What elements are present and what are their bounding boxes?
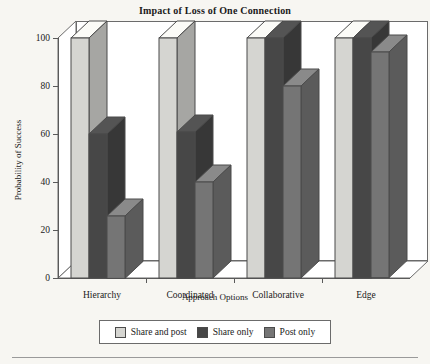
legend-swatch-icon <box>115 327 126 338</box>
plot-area: 020406080100 HierarchyCoordinatedCollabo… <box>58 38 410 278</box>
y-tick <box>53 182 58 183</box>
bar-3d-shape <box>195 165 231 278</box>
bar-coordinated-share-and-post[interactable] <box>159 21 177 278</box>
legend-label: Share only <box>213 327 254 337</box>
y-tick-label-100: 100 <box>36 33 50 43</box>
chart-figure: Impact of Loss of One Connection Probabi… <box>0 0 430 364</box>
y-tick <box>53 38 58 39</box>
bar-collaborative-post-only[interactable] <box>283 69 301 278</box>
y-tick <box>53 230 58 231</box>
x-tick <box>146 278 147 283</box>
bar-hierarchy-share-and-post[interactable] <box>71 21 89 278</box>
bar-edge-post-only[interactable] <box>371 35 389 278</box>
chart-title: Impact of Loss of One Connection <box>0 5 430 16</box>
bar-coordinated-share-only[interactable] <box>177 115 195 278</box>
y-axis-line <box>58 38 59 279</box>
bar-3d-shape <box>107 199 143 278</box>
bar-edge-share-only[interactable] <box>353 21 371 278</box>
y-tick <box>53 278 58 279</box>
bar-edge-share-and-post[interactable] <box>335 21 353 278</box>
y-tick-label-80: 80 <box>41 81 51 91</box>
y-tick-label-40: 40 <box>41 177 51 187</box>
y-tick <box>53 86 58 87</box>
legend-label: Post only <box>280 327 316 337</box>
bar-collaborative-share-and-post[interactable] <box>247 21 265 278</box>
y-tick-label-60: 60 <box>41 129 51 139</box>
y-axis-title: Probability of Success <box>13 80 23 240</box>
legend-swatch-icon <box>197 327 208 338</box>
x-axis-title: Approach Options <box>0 292 430 302</box>
bar-3d-shape <box>371 35 407 278</box>
bar-3d-shape <box>283 69 319 278</box>
x-tick <box>322 278 323 283</box>
x-tick <box>234 278 235 283</box>
y-tick-label-0: 0 <box>45 273 50 283</box>
y-tick <box>53 134 58 135</box>
bar-hierarchy-post-only[interactable] <box>107 199 125 278</box>
chart-legend: Share and postShare onlyPost only <box>99 320 331 344</box>
bar-hierarchy-share-only[interactable] <box>89 117 107 278</box>
bar-coordinated-post-only[interactable] <box>195 165 213 278</box>
legend-swatch-icon <box>264 327 275 338</box>
legend-item-share-and-post[interactable]: Share and post <box>115 327 187 338</box>
legend-item-post-only[interactable]: Post only <box>264 327 316 338</box>
legend-label: Share and post <box>131 327 187 337</box>
bar-collaborative-share-only[interactable] <box>265 21 283 278</box>
footer-rule <box>12 357 418 358</box>
y-tick-label-20: 20 <box>41 225 51 235</box>
legend-item-share-only[interactable]: Share only <box>197 327 254 338</box>
